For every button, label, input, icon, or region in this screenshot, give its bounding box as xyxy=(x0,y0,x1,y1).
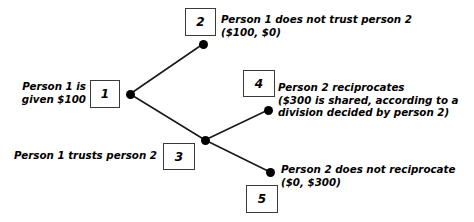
label-outcome-no-reciprocate: Person 2 does not reciprocate ($0, $300) xyxy=(281,163,474,188)
label-trust-action: Person 1 trusts person 2 xyxy=(0,149,157,162)
edge-1-2 xyxy=(130,44,203,94)
edge-3-5 xyxy=(205,140,270,172)
game-tree-diagram: 1 2 3 4 5 Person 1 is given $100 Person … xyxy=(0,0,474,222)
node-box-5: 5 xyxy=(246,185,278,213)
label-outcome-reciprocate: Person 2 reciprocates ($300 is shared, a… xyxy=(278,81,474,119)
node-box-3: 3 xyxy=(163,143,195,170)
node-box-1: 1 xyxy=(90,80,120,108)
node-dot-3 xyxy=(201,136,210,145)
node-dot-2 xyxy=(199,40,208,49)
edge-1-3 xyxy=(130,94,205,140)
node-dot-1 xyxy=(126,90,135,99)
node-dot-5 xyxy=(266,168,275,177)
edge-3-4 xyxy=(205,110,268,140)
node-box-2: 2 xyxy=(185,8,216,36)
node-box-4: 4 xyxy=(243,70,275,97)
label-initial-endowment: Person 1 is given $100 xyxy=(0,80,86,105)
node-dot-4 xyxy=(264,106,273,115)
label-outcome-no-trust: Person 1 does not trust person 2 ($100, … xyxy=(221,13,471,38)
